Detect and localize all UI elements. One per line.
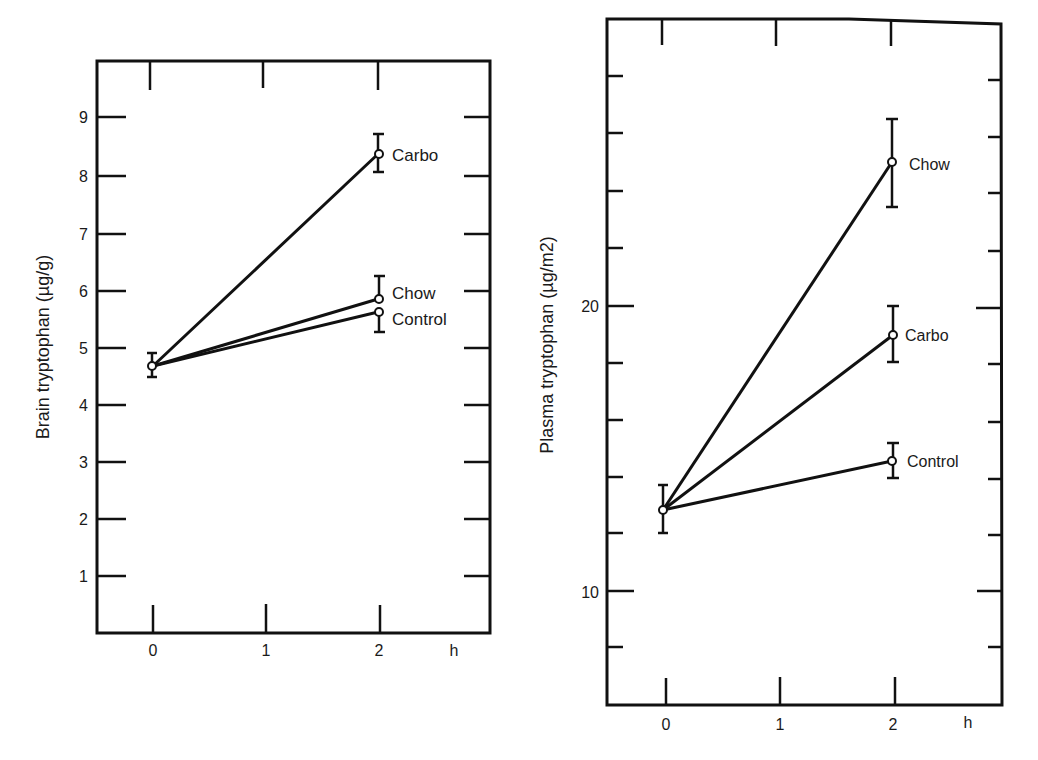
svg-text:7: 7: [79, 226, 88, 243]
x-ticks-top: [662, 19, 891, 46]
svg-text:2: 2: [375, 642, 384, 659]
svg-text:4: 4: [79, 397, 88, 414]
label-chow: Chow: [392, 284, 436, 303]
x-tick-labels: 0 1 2 h: [149, 642, 459, 659]
marker-chow: [888, 158, 896, 166]
svg-text:1: 1: [79, 568, 88, 585]
x-unit-label: h: [450, 642, 459, 659]
y-tick-labels: 9 8 7 6 5 4 3 2 1: [79, 109, 88, 585]
x-tick-labels: 0 1 2 h: [662, 714, 973, 733]
brain-chart-svg: Carbo Chow Control 9 8 7 6 5 4 3 2 1 0 1…: [0, 0, 519, 760]
brain-tryptophan-chart: Carbo Chow Control 9 8 7 6 5 4 3 2 1 0 1…: [0, 0, 519, 760]
marker-chow: [375, 295, 383, 303]
plasma-tryptophan-chart: Chow Carbo Control 20 10 0 1 2 h Plasma …: [519, 0, 1038, 760]
label-carbo: Carbo: [905, 327, 949, 344]
marker-carbo: [889, 331, 897, 339]
label-control: Control: [907, 453, 959, 470]
error-bars: [658, 119, 899, 533]
y-axis-label: Brain tryptophan (µg/g): [33, 255, 53, 439]
y-tick-labels: 20 10: [581, 298, 599, 601]
svg-text:3: 3: [79, 454, 88, 471]
label-control: Control: [392, 310, 447, 329]
plasma-chart-svg: Chow Carbo Control 20 10 0 1 2 h Plasma …: [519, 0, 1038, 760]
error-bars: [147, 134, 385, 377]
y-ticks-left: [607, 76, 634, 647]
x-ticks-top: [150, 61, 378, 90]
line-carbo: [153, 154, 378, 366]
svg-text:2: 2: [889, 716, 898, 733]
svg-text:5: 5: [79, 340, 88, 357]
marker-control: [888, 457, 896, 465]
line-control: [153, 312, 378, 366]
label-chow: Chow: [909, 156, 950, 173]
marker-start: [148, 362, 156, 370]
series-lines: [153, 154, 378, 366]
svg-text:10: 10: [581, 584, 599, 601]
marker-start: [659, 506, 667, 514]
marker-carbo: [375, 150, 383, 158]
series-lines: [663, 162, 893, 510]
x-ticks-bottom: [153, 604, 380, 633]
y-axis-label: Plasma tryptophan (µg/m2): [537, 236, 557, 453]
svg-text:1: 1: [776, 716, 785, 733]
marker-control: [375, 308, 383, 316]
y-ticks-left: [97, 117, 126, 576]
line-carbo: [663, 335, 893, 510]
y-ticks-right: [464, 117, 490, 576]
svg-text:8: 8: [79, 168, 88, 185]
svg-text:0: 0: [149, 642, 158, 659]
label-carbo: Carbo: [392, 146, 438, 165]
svg-text:9: 9: [79, 109, 88, 126]
svg-text:6: 6: [79, 283, 88, 300]
svg-text:0: 0: [662, 716, 671, 733]
x-ticks-bottom: [666, 677, 895, 705]
line-chow: [663, 162, 892, 510]
plot-frame: [607, 19, 1002, 705]
x-unit-label: h: [964, 714, 973, 731]
y-ticks-right: [976, 80, 1001, 647]
svg-text:20: 20: [581, 298, 599, 315]
svg-text:2: 2: [79, 511, 88, 528]
svg-text:1: 1: [262, 642, 271, 659]
